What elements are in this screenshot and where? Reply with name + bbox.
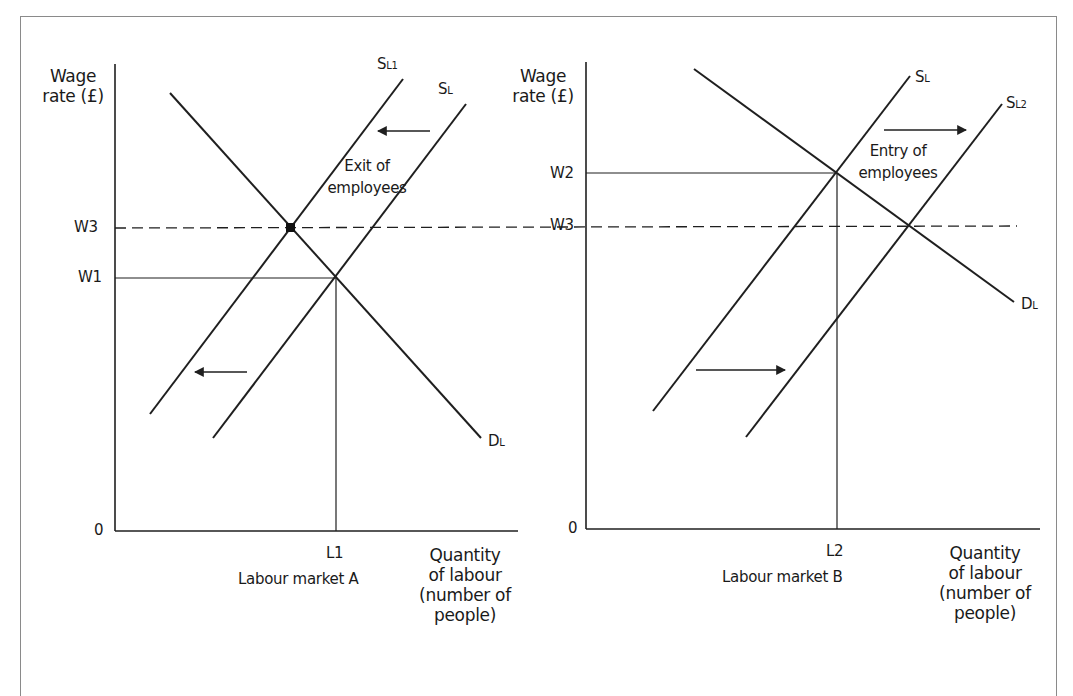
curve-label-main: S [377, 55, 386, 73]
x-axis-title-line: of labour [930, 563, 1040, 583]
demand-curve-b [694, 69, 1014, 302]
y-axis-title-line2: rate (£) [506, 86, 580, 106]
x-axis-title-line: (number of [410, 585, 520, 605]
label-sl1: SL1 [377, 54, 398, 76]
x-axis-title-a: Quantity of labour (number of people) [410, 545, 520, 625]
x-axis-title-line: (number of [930, 583, 1040, 603]
supply-curve-sl-b [653, 76, 910, 411]
y-axis-title-line2: rate (£) [36, 86, 110, 106]
tick-l1: L1 [326, 543, 343, 564]
x-axis-title-line: of labour [410, 565, 520, 585]
x-axis-title-line: Quantity [410, 545, 520, 565]
annotation-exit-of-employees: Exit of employees [312, 155, 422, 199]
curve-label-sub: L [447, 85, 452, 96]
label-dl-b: DL [1021, 294, 1038, 316]
y-axis-title-b: Wage rate (£) [506, 66, 580, 106]
curve-label-main: S [438, 80, 447, 98]
label-sl-a: SL [438, 79, 453, 101]
y-axis-title-a: Wage rate (£) [36, 66, 110, 106]
curve-label-main: S [915, 68, 924, 86]
label-sl2: SL2 [1006, 93, 1027, 115]
origin-label-a: 0 [94, 520, 103, 541]
origin-label-b: 0 [568, 518, 577, 539]
curve-label-sub: L [499, 437, 504, 448]
tick-w1: W1 [78, 267, 102, 288]
x-axis-title-line: people) [930, 603, 1040, 623]
curve-label-main: S [1006, 94, 1015, 112]
panel-a [115, 64, 1017, 531]
tick-l2: L2 [826, 541, 843, 562]
annotation-line: employees [838, 162, 958, 184]
panel-b [586, 62, 1040, 529]
label-sl-b: SL [915, 67, 930, 89]
curve-label-sub: L2 [1015, 99, 1026, 110]
x-axis-title-line: Quantity [930, 543, 1040, 563]
new-equilibrium-point [286, 223, 295, 232]
tick-w2: W2 [550, 163, 574, 184]
label-dl-a: DL [488, 431, 505, 453]
annotation-line: employees [312, 177, 422, 199]
annotation-line: Entry of [838, 140, 958, 162]
annotation-line: Exit of [312, 155, 422, 177]
y-axis-title-line1: Wage [506, 66, 580, 86]
curve-label-sub: L1 [386, 60, 397, 71]
tick-w3-a: W3 [74, 217, 98, 238]
tick-w3-b: W3 [550, 215, 574, 236]
curve-label-sub: L [924, 73, 929, 84]
annotation-entry-of-employees: Entry of employees [838, 140, 958, 184]
y-axis-title-line1: Wage [36, 66, 110, 86]
caption-market-a: Labour market A [238, 569, 358, 590]
curve-label-sub: L [1032, 300, 1037, 311]
curve-label-main: D [488, 432, 499, 450]
x-axis-title-line: people) [410, 605, 520, 625]
supply-curve-sl1 [150, 79, 403, 414]
curve-label-main: D [1021, 295, 1032, 313]
caption-market-b: Labour market B [722, 567, 842, 588]
x-axis-title-b: Quantity of labour (number of people) [930, 543, 1040, 623]
